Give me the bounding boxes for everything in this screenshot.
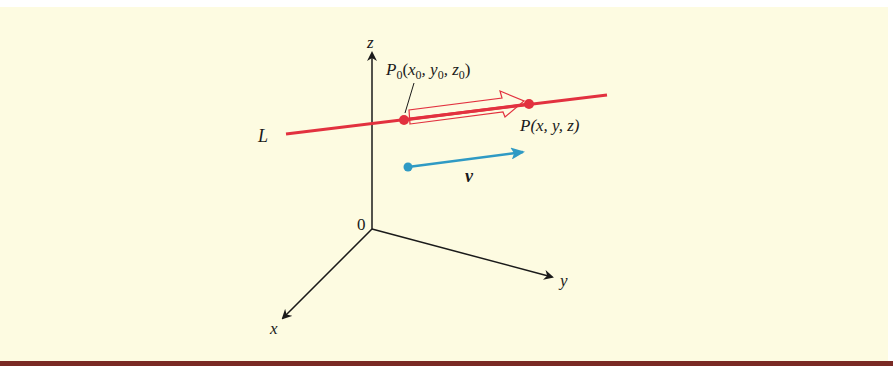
axes (283, 53, 552, 318)
vector-v-label: v (465, 166, 474, 186)
point-p (524, 99, 534, 109)
y-axis (372, 229, 552, 277)
z-axis-label: z (366, 33, 374, 52)
line-in-space-diagram: z y x 0 L P0(x0, y0, z0) P(x, y, z) v (0, 0, 893, 366)
y-axis-label: y (558, 271, 568, 290)
p-label: P(x, y, z) (519, 116, 580, 135)
p0-label: P0(x0, y0, z0) (385, 60, 470, 82)
origin-label: 0 (357, 215, 366, 234)
direction-vector-v (408, 152, 523, 167)
vector-v-tail-point (404, 163, 413, 172)
x-axis-label: x (269, 319, 278, 338)
line-L-label: L (257, 126, 268, 146)
point-p0 (399, 115, 409, 125)
p0-leader-line (405, 83, 414, 113)
x-axis (283, 229, 372, 318)
